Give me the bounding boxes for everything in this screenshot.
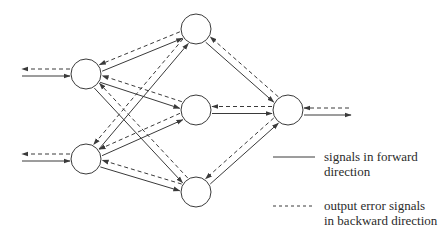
- neuron-input-2: [71, 144, 101, 174]
- forward-signal-input-1-to-hidden-1: [102, 38, 182, 71]
- neuron-input-1: [71, 59, 101, 89]
- neurons: [71, 14, 303, 207]
- neuron-hidden-1: [181, 14, 211, 44]
- neuron-hidden-3: [181, 177, 211, 207]
- forward-signal-hidden-3-to-output-1: [210, 123, 278, 184]
- forward-signal-input-2-to-hidden-3: [100, 167, 179, 191]
- backward-error-output-1-to-hidden-1: [210, 37, 278, 97]
- legend-forward-label: signals in forward direction: [324, 149, 418, 179]
- legend-forward-line1: signals in forward: [324, 149, 418, 164]
- backward-error-hidden-3-to-input-2: [102, 160, 181, 184]
- backward-error-output-1-to-hidden-3: [206, 118, 274, 179]
- neuron-hidden-2: [181, 95, 211, 125]
- legend-backward-line2: in backward direction: [324, 213, 437, 228]
- forward-signal-input-1-to-hidden-2: [100, 82, 180, 108]
- legend-backward-line1: output error signals: [324, 198, 437, 213]
- legend-lines: [273, 157, 315, 206]
- legend-forward-line2: direction: [324, 164, 418, 179]
- legend-backward-label: output error signals in backward directi…: [324, 198, 437, 228]
- forward-signal-input-2-to-hidden-2: [102, 120, 183, 156]
- backward-error-hidden-2-to-input-2: [99, 113, 180, 149]
- neuron-output-1: [273, 95, 303, 125]
- backward-error-hidden-1-to-input-2: [94, 39, 183, 145]
- backward-error-hidden-1-to-input-1: [99, 32, 179, 65]
- forward-signal-hidden-1-to-output-1: [206, 42, 274, 102]
